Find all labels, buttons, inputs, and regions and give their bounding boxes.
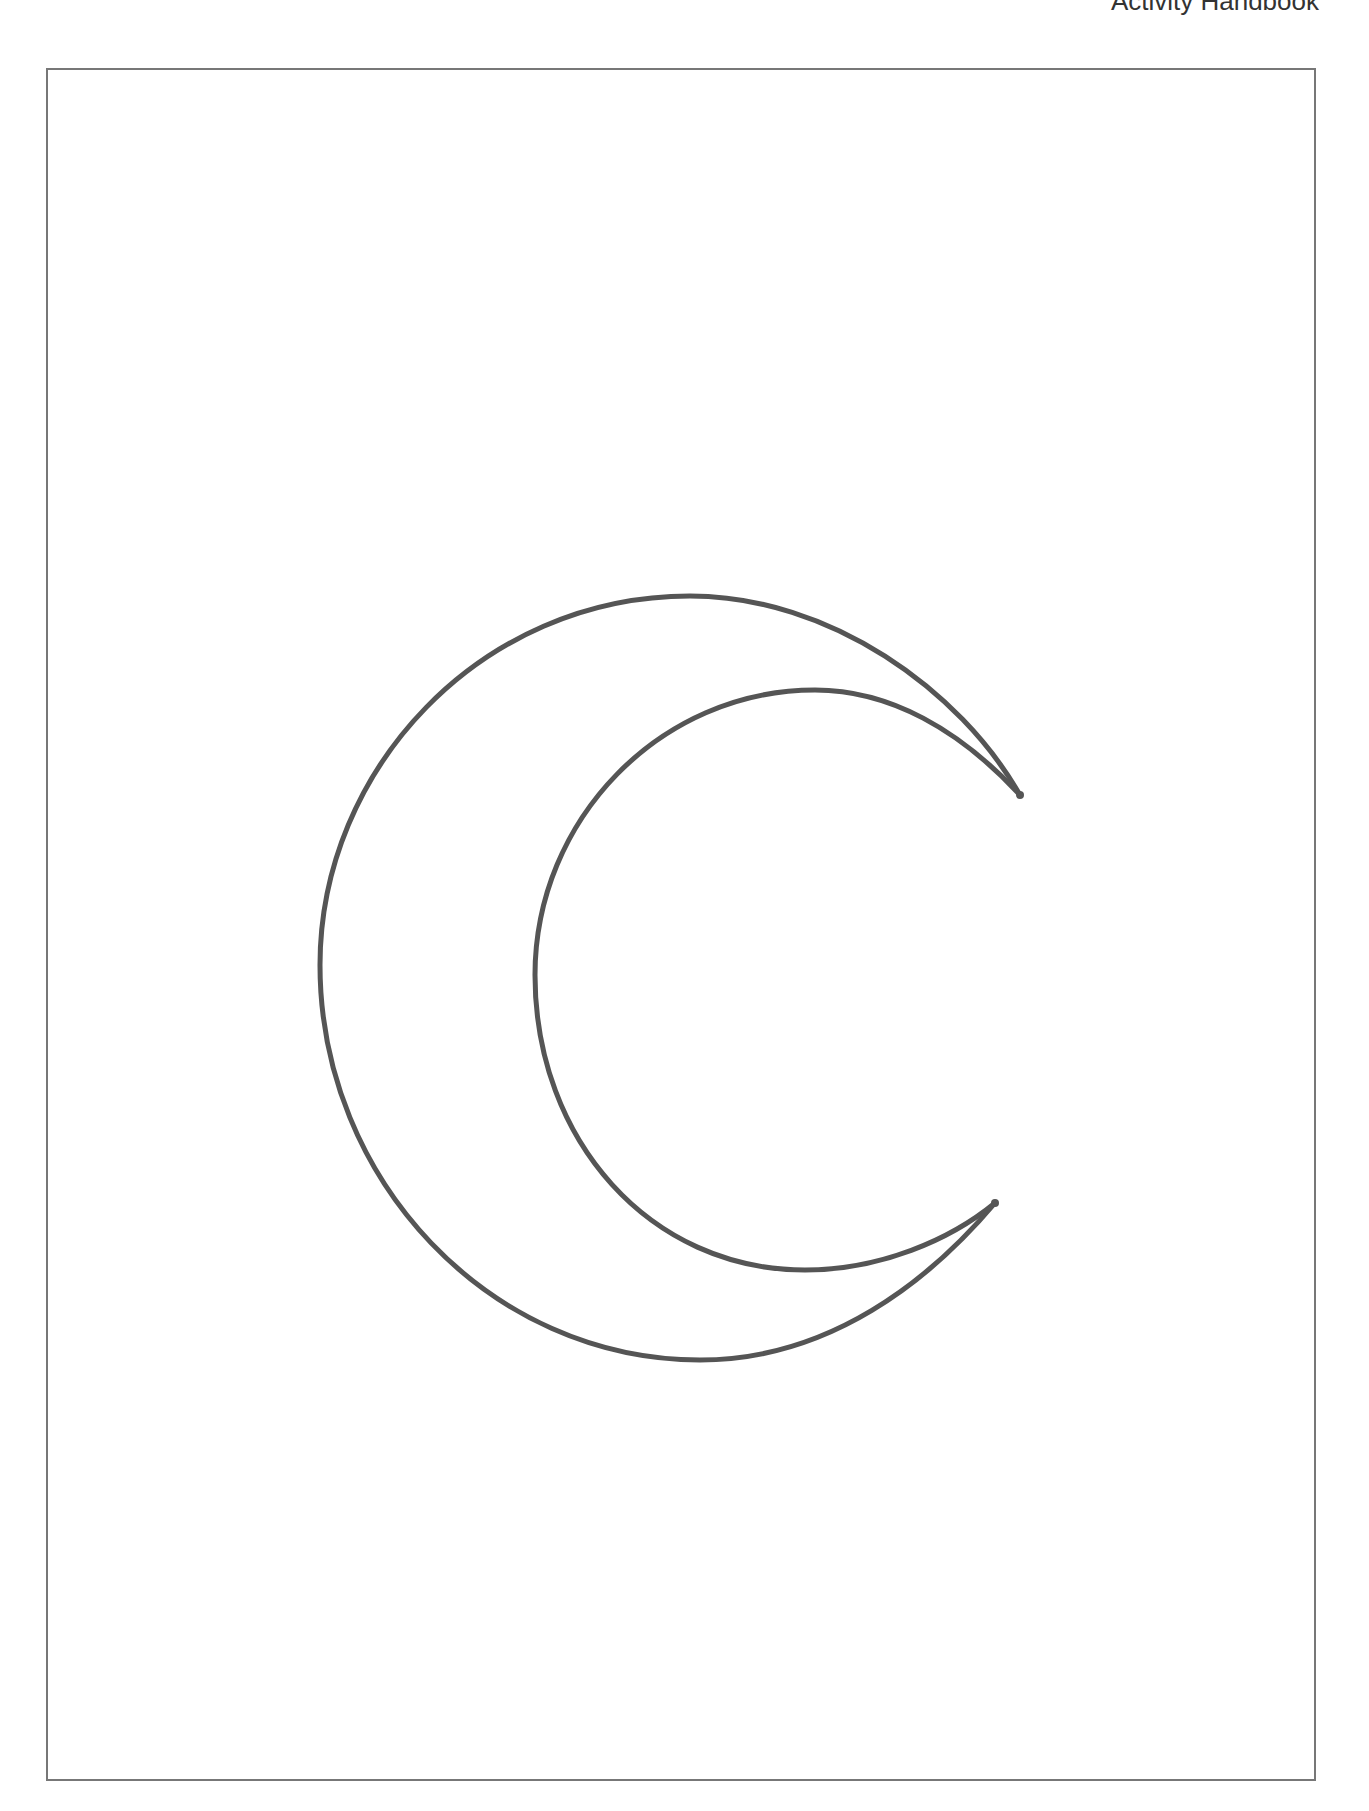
crescent-outer-arc (320, 596, 1020, 1360)
crescent-upper-tip (1016, 791, 1024, 799)
crescent-inner-arc (535, 690, 1020, 1270)
crescent-moon-icon (0, 0, 1369, 1811)
crescent-lower-tip (991, 1199, 999, 1207)
